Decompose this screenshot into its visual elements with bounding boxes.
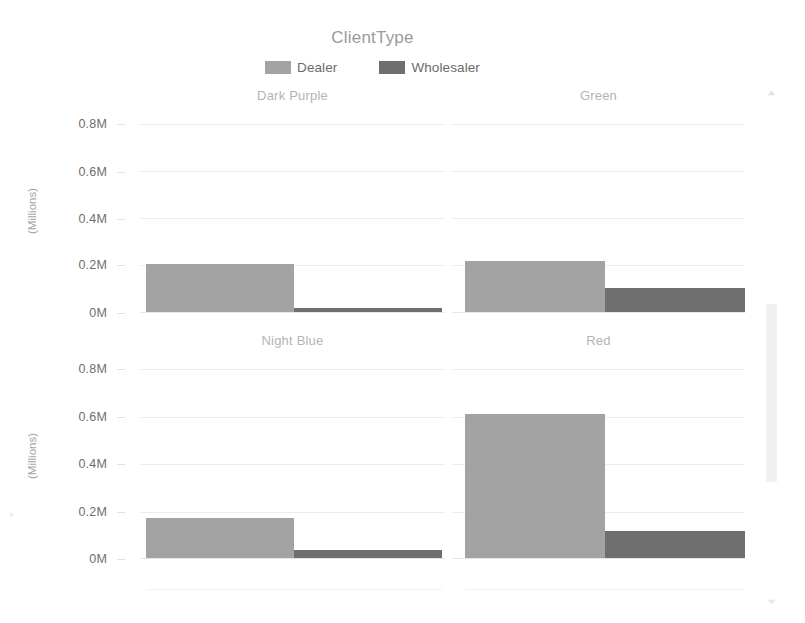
plot-area (452, 124, 745, 313)
bar-wholesaler[interactable] (605, 288, 745, 312)
panel-title: Red (452, 333, 745, 348)
y-axis-row-2: (Millions) 0.8M 0.6M 0.4M 0.2M 0M (0, 347, 140, 569)
y-axis-tick-label: 0.4M (78, 212, 107, 226)
y-axis-tick-mark (117, 464, 125, 465)
y-axis-title: (Millions) (26, 173, 38, 249)
y-axis-row-1: (Millions) 0.8M 0.6M 0.4M 0.2M 0M (0, 102, 140, 324)
legend-swatch-icon (265, 61, 291, 74)
gridline (140, 171, 445, 172)
y-axis-tick-mark (117, 369, 125, 370)
plot-area (140, 124, 445, 313)
bar-dealer[interactable] (146, 264, 294, 312)
scroll-down-button[interactable] (765, 595, 778, 608)
y-axis-tick-label: 0.2M (78, 505, 107, 519)
gridline (452, 171, 745, 172)
gridline (452, 218, 745, 219)
legend-item-wholesaler[interactable]: Wholesaler (379, 60, 480, 75)
plot-area (452, 369, 745, 559)
chart-legend: Dealer Wholesaler (0, 60, 745, 75)
bar-dealer[interactable] (465, 414, 605, 558)
y-axis-tick-label: 0.6M (78, 410, 107, 424)
y-axis-tick-mark (117, 219, 125, 220)
legend-swatch-icon (379, 61, 405, 74)
vertical-scrollbar[interactable] (765, 86, 778, 608)
axis-baseline (140, 312, 445, 313)
legend-item-label: Dealer (297, 60, 337, 75)
y-axis-tick-label: 0.2M (78, 258, 107, 272)
y-axis-tick-mark (117, 265, 125, 266)
y-axis-tick-mark (117, 124, 125, 125)
bar-wholesaler[interactable] (294, 308, 442, 312)
y-axis-tick-mark (117, 559, 125, 560)
chart-canvas: ClientType Dealer Wholesaler (Millions) … (0, 0, 805, 623)
legend-item-dealer[interactable]: Dealer (265, 60, 337, 75)
chevron-down-icon (767, 599, 776, 605)
scroll-up-button[interactable] (765, 86, 778, 99)
gridline (140, 218, 445, 219)
y-axis-tick-label: 0.8M (78, 117, 107, 131)
panel-night-blue: Night Blue (140, 333, 445, 569)
render-artifact (10, 513, 13, 516)
panel-title: Dark Purple (140, 88, 445, 103)
bar-dealer[interactable] (465, 261, 605, 312)
y-axis-title: (Millions) (26, 418, 38, 494)
panel-title: Night Blue (140, 333, 445, 348)
legend-item-label: Wholesaler (411, 60, 480, 75)
scrollbar-track[interactable] (765, 99, 778, 595)
gridline (140, 512, 445, 513)
y-axis-tick-label: 0M (89, 306, 107, 320)
panel-green: Green (452, 88, 745, 324)
gridline (140, 417, 445, 418)
axis-baseline (452, 312, 745, 313)
gridline (140, 124, 445, 125)
gridline-next-row (146, 589, 442, 590)
y-axis-tick-mark (117, 417, 125, 418)
panel-title: Green (452, 88, 745, 103)
y-axis-tick-mark (117, 313, 125, 314)
scrollbar-thumb[interactable] (766, 304, 777, 482)
axis-baseline (452, 558, 745, 559)
bar-dealer[interactable] (146, 518, 294, 558)
y-axis-tick-label: 0.4M (78, 457, 107, 471)
gridline (452, 369, 745, 370)
panel-red: Red (452, 333, 745, 569)
y-axis-tick-mark (117, 512, 125, 513)
bar-wholesaler[interactable] (605, 531, 745, 558)
axis-baseline (140, 558, 445, 559)
y-axis-tick-label: 0.6M (78, 165, 107, 179)
gridline (140, 369, 445, 370)
gridline (452, 124, 745, 125)
gridline (140, 464, 445, 465)
gridline-next-row (465, 589, 745, 590)
y-axis-tick-label: 0M (89, 552, 107, 566)
page-title: ClientType (0, 28, 745, 48)
panel-dark-purple: Dark Purple (140, 88, 445, 324)
bar-wholesaler[interactable] (294, 550, 442, 558)
y-axis-tick-label: 0.8M (78, 362, 107, 376)
y-axis-tick-mark (117, 172, 125, 173)
chevron-up-icon (767, 90, 776, 96)
plot-area (140, 369, 445, 559)
